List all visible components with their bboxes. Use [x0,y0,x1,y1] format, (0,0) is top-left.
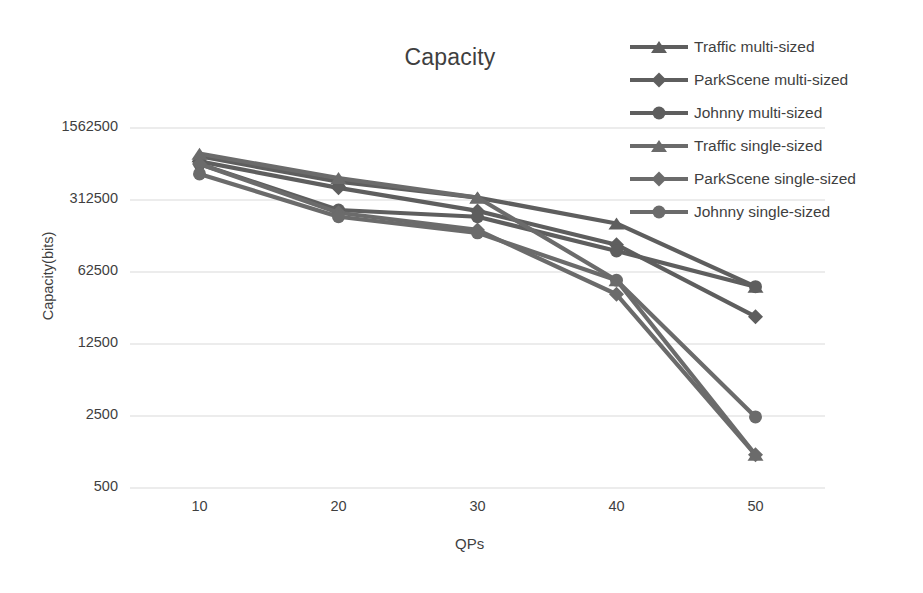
data-point-circle-marker [610,274,623,287]
y-axis-tick-label: 500 [0,478,118,494]
data-point-circle-marker [471,226,484,239]
legend-diamond-icon [628,170,690,188]
data-point-circle-marker [471,210,484,223]
x-axis-tick-label: 50 [726,498,786,514]
y-axis-tick-label: 62500 [0,262,118,278]
legend-label: ParkScene single-sized [694,170,856,188]
legend-label: ParkScene multi-sized [694,71,848,89]
legend-item[interactable]: Johnny single-sized [628,195,923,228]
legend-item[interactable]: Johnny multi-sized [628,96,923,129]
legend: Traffic multi-sizedParkScene multi-sized… [628,30,923,228]
data-point-circle-marker [653,205,666,218]
legend-label: Johnny single-sized [694,203,830,221]
x-axis-title-text: QPs [455,535,484,552]
legend-circle-icon [628,104,690,122]
y-axis-tick-label: 312500 [0,190,118,206]
legend-label: Traffic single-sized [694,137,822,155]
data-point-diamond-marker [652,171,667,186]
legend-item[interactable]: ParkScene multi-sized [628,63,923,96]
x-axis-tick-label: 20 [309,498,369,514]
x-axis-tick-label: 40 [587,498,647,514]
legend-label: Johnny multi-sized [694,104,822,122]
legend-circle-icon [628,203,690,221]
y-axis-tick-label: 2500 [0,406,118,422]
x-axis-tick-label: 10 [170,498,230,514]
data-point-diamond-marker [748,309,763,324]
legend-diamond-icon [628,71,690,89]
legend-item[interactable]: ParkScene single-sized [628,162,923,195]
data-point-circle-marker [610,244,623,257]
y-axis-tick-label: 1562500 [0,118,118,134]
data-point-circle-marker [749,280,762,293]
data-point-circle-marker [653,106,666,119]
data-point-circle-marker [332,210,345,223]
legend-triangle-icon [628,38,690,56]
chart-root: Capacity Capacity(bits) QPs 156250031250… [0,0,923,593]
data-point-diamond-marker [652,72,667,87]
legend-label: Traffic multi-sized [694,38,815,56]
data-point-circle-marker [193,167,206,180]
y-axis-tick-label: 12500 [0,334,118,350]
legend-triangle-icon [628,137,690,155]
legend-item[interactable]: Traffic multi-sized [628,30,923,63]
data-point-circle-marker [749,410,762,423]
legend-item[interactable]: Traffic single-sized [628,129,923,162]
x-axis-tick-label: 30 [448,498,508,514]
y-axis-tick-labels: 156250031250062500125002500500 [0,0,118,593]
